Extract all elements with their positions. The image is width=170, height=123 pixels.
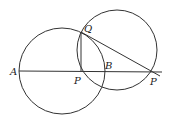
line-qp-prime (81, 32, 160, 76)
label-p-prime: P (149, 76, 157, 87)
label-a: A (9, 66, 17, 77)
right-circle (77, 10, 157, 90)
label-q: Q (84, 23, 92, 34)
geometry-diagram: A P B Q P (0, 0, 170, 123)
line-ap (19, 71, 162, 72)
label-b: B (104, 60, 112, 71)
label-p: P (73, 75, 81, 86)
